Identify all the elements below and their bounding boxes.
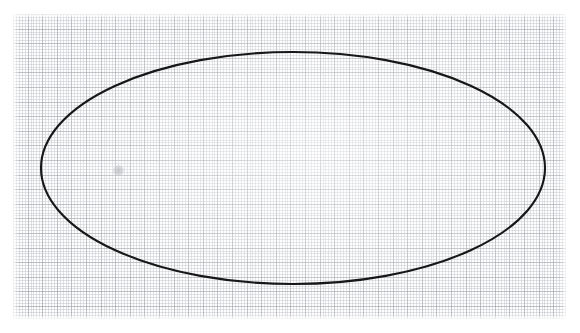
screenshot-canvas xyxy=(0,0,580,333)
pencil-smudge-dot xyxy=(113,165,124,176)
figure-layer xyxy=(0,0,580,333)
